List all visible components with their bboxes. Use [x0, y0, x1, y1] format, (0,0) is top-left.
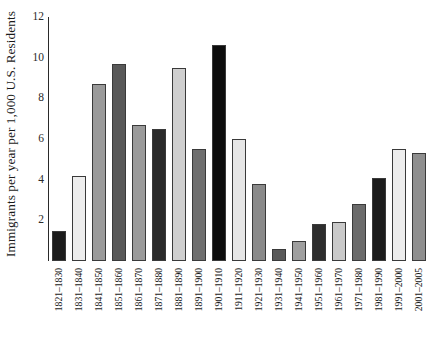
bar	[352, 204, 366, 261]
x-axis-tick: 1931–1940	[269, 264, 289, 338]
bar	[332, 222, 346, 261]
x-axis-tick-label: 1841–1850	[94, 268, 104, 311]
bar-slot	[369, 17, 389, 261]
bar	[212, 45, 226, 261]
y-axis-tick-12: 12	[33, 11, 45, 23]
bar	[272, 249, 286, 261]
bar-slot	[309, 17, 329, 261]
bar-slot	[329, 17, 349, 261]
bar	[252, 184, 266, 261]
bars-container	[49, 17, 429, 261]
x-axis-tick-label: 1951–1960	[314, 268, 324, 311]
x-axis-tick: 1951–1960	[309, 264, 329, 338]
x-axis-tick-label: 1871–1880	[154, 268, 164, 311]
x-axis-tick: 1981–1990	[369, 264, 389, 338]
y-axis-tick-4: 4	[38, 174, 44, 186]
bar	[52, 231, 66, 262]
bar	[92, 84, 106, 261]
x-axis-tick-label: 1931–1940	[274, 268, 284, 311]
x-axis-tick: 1901–1910	[209, 264, 229, 338]
bar-slot	[129, 17, 149, 261]
bar-slot	[209, 17, 229, 261]
x-axis-tick: 1871–1880	[149, 264, 169, 338]
x-axis-tick-label: 1881–1890	[174, 268, 184, 311]
x-axis-tick: 1861–1870	[129, 264, 149, 338]
x-axis-tick-label: 1861–1870	[134, 268, 144, 311]
y-axis-tick-2: 2	[38, 215, 44, 227]
x-axis-tick-label: 1961–1970	[334, 268, 344, 311]
bar	[72, 176, 86, 261]
plot-area: 24681012	[48, 17, 429, 261]
bar	[412, 153, 426, 261]
y-axis-tick-6: 6	[38, 133, 44, 145]
x-axis-tick: 1961–1970	[329, 264, 349, 338]
x-axis-tick-labels: 1821–18301831–18401841–18501851–18601861…	[49, 264, 429, 338]
bar-chart-figure: Immigrants per year per 1,000 U.S. Resid…	[0, 0, 431, 338]
bar-slot	[389, 17, 409, 261]
bar-slot	[409, 17, 429, 261]
x-axis-tick: 1921–1930	[249, 264, 269, 338]
x-axis-tick-label: 1971–1980	[354, 268, 364, 311]
bar-slot	[229, 17, 249, 261]
x-axis-tick: 2001–2005	[409, 264, 429, 338]
bar-slot	[269, 17, 289, 261]
x-axis-tick: 1831–1840	[69, 264, 89, 338]
x-axis-tick: 1911–1920	[229, 264, 249, 338]
bar-slot	[249, 17, 269, 261]
bar-slot	[169, 17, 189, 261]
bar	[312, 224, 326, 261]
x-axis-tick-label: 1911–1920	[234, 268, 244, 311]
x-axis-tick: 1881–1890	[169, 264, 189, 338]
bar	[132, 125, 146, 261]
bar	[172, 68, 186, 261]
bar	[292, 241, 306, 261]
x-axis-tick-label: 1821–1830	[54, 268, 64, 311]
bar-slot	[69, 17, 89, 261]
bar-slot	[289, 17, 309, 261]
x-axis-tick-label: 1901–1910	[214, 268, 224, 311]
x-axis-tick-label: 2001–2005	[414, 268, 424, 311]
x-axis-tick: 1941–1950	[289, 264, 309, 338]
x-axis-tick-label: 1851–1860	[114, 268, 124, 311]
x-axis-tick-label: 1831–1840	[74, 268, 84, 311]
bar	[392, 149, 406, 261]
bar	[232, 139, 246, 261]
x-axis-tick: 1891–1900	[189, 264, 209, 338]
bar	[372, 178, 386, 261]
bar	[112, 64, 126, 261]
x-axis-tick: 1971–1980	[349, 264, 369, 338]
bar	[192, 149, 206, 261]
y-axis-tick-8: 8	[38, 93, 44, 105]
bar-slot	[109, 17, 129, 261]
x-axis-tick-label: 1981–1990	[374, 268, 384, 311]
y-axis-tick-10: 10	[33, 52, 45, 64]
y-axis-title-label: Immigrants per year per 1,000 U.S. Resid…	[3, 11, 19, 257]
bar-slot	[89, 17, 109, 261]
y-axis-title: Immigrants per year per 1,000 U.S. Resid…	[0, 0, 22, 268]
x-axis-tick-label: 1991–2000	[394, 268, 404, 311]
bar-slot	[149, 17, 169, 261]
bar-slot	[49, 17, 69, 261]
x-axis-tick: 1851–1860	[109, 264, 129, 338]
x-axis-tick: 1991–2000	[389, 264, 409, 338]
bar	[152, 129, 166, 261]
x-axis-tick: 1841–1850	[89, 264, 109, 338]
bar-slot	[349, 17, 369, 261]
x-axis-tick-label: 1921–1930	[254, 268, 264, 311]
bar-slot	[189, 17, 209, 261]
x-axis-tick: 1821–1830	[49, 264, 69, 338]
x-axis-tick-label: 1891–1900	[194, 268, 204, 311]
x-axis-tick-label: 1941–1950	[294, 268, 304, 311]
